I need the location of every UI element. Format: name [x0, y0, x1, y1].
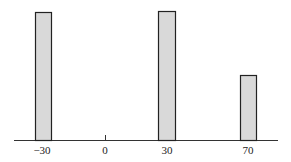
tick-label-0: 0 [102, 144, 108, 156]
bar-30 [159, 12, 176, 141]
tick-label-70: 70 [243, 144, 254, 156]
bar-chart [0, 0, 291, 162]
bar-minus-30 [36, 13, 52, 141]
tick-label-minus-30: −30 [33, 144, 50, 156]
tick-label-30: 30 [162, 144, 173, 156]
bar-70 [241, 76, 257, 141]
